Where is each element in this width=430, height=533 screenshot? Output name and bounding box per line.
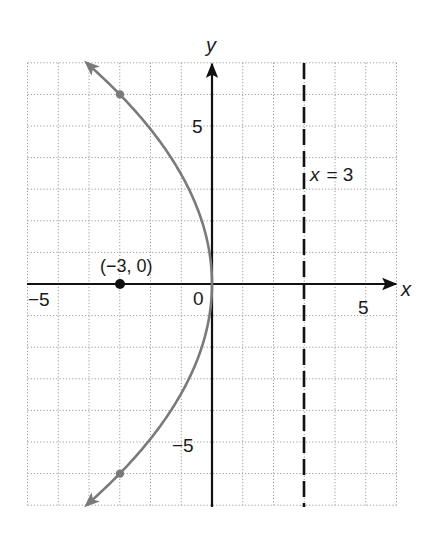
y-tick-label-neg5: −5 <box>172 435 194 456</box>
y-axis-label: y <box>204 34 217 56</box>
directrix-label-eq: = 3 <box>327 164 354 185</box>
y-tick-label-5: 5 <box>192 116 203 137</box>
directrix-label-var: x <box>309 164 321 185</box>
x-axis-label: x <box>400 278 412 300</box>
parabola-point-upper <box>116 90 124 98</box>
focus-label: (−3, 0) <box>100 256 153 276</box>
directrix-label: x= 3 <box>309 164 353 185</box>
origin-label: 0 <box>193 288 204 309</box>
parabola-point-lower <box>116 469 124 477</box>
focus-point <box>115 279 125 289</box>
x-tick-label-neg5: −5 <box>28 289 50 310</box>
x-tick-label-5: 5 <box>358 297 369 318</box>
parabola-graph: y x −5 5 0 5 −5 (−3, 0) x= 3 <box>0 0 430 533</box>
